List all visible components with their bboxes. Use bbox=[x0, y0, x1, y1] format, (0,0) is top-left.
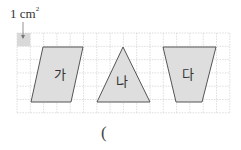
shape-label-trapezoid: 다 bbox=[182, 67, 194, 82]
unit-square bbox=[17, 33, 30, 46]
answer-paren: ( bbox=[101, 123, 107, 143]
shape-label-parallelogram: 가 bbox=[54, 67, 66, 82]
shapes-group: 가나다 bbox=[31, 47, 216, 102]
grid-diagram: 가나다 bbox=[0, 0, 241, 150]
shape-label-triangle: 나 bbox=[116, 74, 128, 89]
